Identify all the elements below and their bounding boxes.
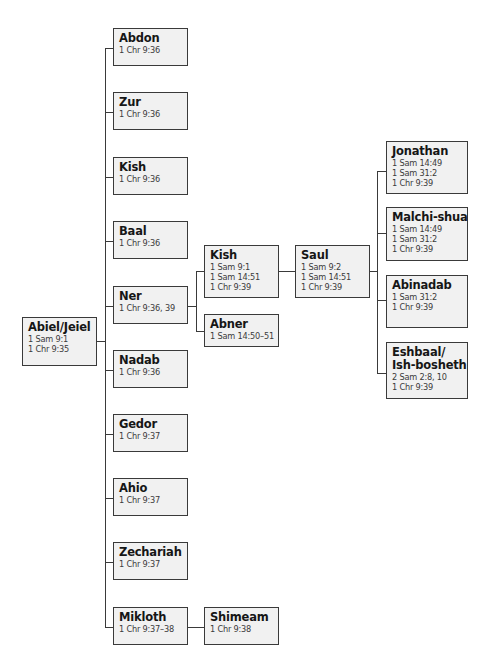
connector — [105, 370, 113, 371]
person-name: Abiel/Jeiel — [28, 321, 92, 334]
person-box-jonathan: Jonathan 1 Sam 14:49 1 Sam 31:2 1 Chr 9:… — [386, 141, 468, 194]
person-name: Zur — [119, 96, 183, 109]
person-box-abinadab: Abinadab 1 Sam 31:2 1 Chr 9:39 — [386, 275, 468, 328]
connector — [105, 177, 113, 178]
reference: 1 Chr 9:36 — [119, 174, 183, 184]
person-name-alt: Ish-bosheth — [392, 359, 463, 372]
reference: 1 Sam 31:2 — [392, 292, 463, 302]
person-box-baal: Baal 1 Chr 9:36 — [113, 221, 188, 259]
person-box-zur: Zur 1 Chr 9:36 — [113, 92, 188, 130]
reference: 2 Sam 2:8, 10 — [392, 372, 463, 382]
connector — [377, 373, 386, 374]
reference: 1 Chr 9:39 — [301, 282, 365, 292]
person-name: Nadab — [119, 354, 183, 367]
connector — [105, 48, 113, 49]
person-name: Ner — [119, 290, 183, 303]
person-box-ahio: Ahio 1 Chr 9:37 — [113, 478, 188, 516]
reference: 1 Chr 9:39 — [392, 302, 463, 312]
reference: 1 Chr 9:39 — [392, 244, 463, 254]
person-box-zechariah: Zechariah 1 Chr 9:37 — [113, 542, 188, 580]
reference: 1 Chr 9:37 — [119, 431, 183, 441]
person-box-abdon: Abdon 1 Chr 9:36 — [113, 28, 188, 66]
reference: 1 Sam 31:2 — [392, 234, 463, 244]
connector — [188, 627, 204, 628]
person-box-malchi-shua: Malchi-shua 1 Sam 14:49 1 Sam 31:2 1 Chr… — [386, 207, 468, 261]
reference: 1 Chr 9:36 — [119, 109, 183, 119]
reference: 1 Sam 14:49 — [392, 158, 463, 168]
person-name: Mikloth — [119, 611, 183, 624]
connector — [105, 434, 113, 435]
reference: 1 Sam 14:49 — [392, 224, 463, 234]
reference: 1 Sam 31:2 — [392, 168, 463, 178]
connector — [370, 271, 377, 272]
person-name: Malchi-shua — [392, 211, 463, 224]
reference: 1 Chr 9:38 — [210, 624, 274, 634]
connector — [105, 241, 113, 242]
person-box-abiel-jeiel: Abiel/Jeiel 1 Sam 9:1 1 Chr 9:35 — [22, 317, 97, 366]
connector — [105, 306, 113, 307]
reference: 1 Sam 9:1 — [210, 262, 274, 272]
person-box-nadab: Nadab 1 Chr 9:36 — [113, 350, 188, 388]
person-name: Baal — [119, 225, 183, 238]
person-name: Kish — [119, 161, 183, 174]
connector — [279, 271, 295, 272]
connector — [196, 271, 197, 332]
person-name: Saul — [301, 249, 365, 262]
connector — [188, 306, 196, 307]
connector — [377, 233, 386, 234]
person-name: Abdon — [119, 32, 183, 45]
connector — [377, 300, 386, 301]
person-box-mikloth: Mikloth 1 Chr 9:37–38 — [113, 607, 188, 645]
reference: 1 Sam 9:2 — [301, 262, 365, 272]
person-name: Jonathan — [392, 145, 463, 158]
connector — [97, 341, 105, 342]
reference: 1 Chr 9:36 — [119, 45, 183, 55]
reference: 1 Sam 14:51 — [210, 272, 274, 282]
reference: 1 Chr 9:37 — [119, 559, 183, 569]
person-box-saul: Saul 1 Sam 9:2 1 Sam 14:51 1 Chr 9:39 — [295, 245, 370, 298]
reference: 1 Sam 9:1 — [28, 334, 92, 344]
reference: 1 Chr 9:39 — [392, 178, 463, 188]
person-name: Gedor — [119, 418, 183, 431]
person-box-kish-2: Kish 1 Sam 9:1 1 Sam 14:51 1 Chr 9:39 — [204, 245, 279, 298]
person-box-shimeam: Shimeam 1 Chr 9:38 — [204, 607, 279, 645]
person-name: Shimeam — [210, 611, 274, 624]
reference: 1 Sam 14:50–51 — [210, 331, 274, 341]
connector — [196, 271, 204, 272]
connector — [105, 498, 113, 499]
person-name: Kish — [210, 249, 274, 262]
reference: 1 Chr 9:37 — [119, 495, 183, 505]
person-name: Abner — [210, 318, 274, 331]
reference: 1 Chr 9:39 — [392, 382, 463, 392]
connector — [105, 112, 113, 113]
person-box-eshbaal: Eshbaal/ Ish-bosheth 2 Sam 2:8, 10 1 Chr… — [386, 342, 468, 399]
person-name: Abinadab — [392, 279, 463, 292]
reference: 1 Chr 9:36 — [119, 238, 183, 248]
connector — [105, 627, 113, 628]
person-box-gedor: Gedor 1 Chr 9:37 — [113, 414, 188, 452]
connector — [105, 48, 106, 628]
reference: 1 Sam 14:51 — [301, 272, 365, 282]
connector — [196, 331, 204, 332]
person-name: Ahio — [119, 482, 183, 495]
connector — [377, 171, 386, 172]
person-box-kish-1: Kish 1 Chr 9:36 — [113, 157, 188, 195]
reference: 1 Chr 9:36, 39 — [119, 303, 183, 313]
person-name: Zechariah — [119, 546, 183, 559]
person-box-abner: Abner 1 Sam 14:50–51 — [204, 314, 279, 347]
connector — [377, 171, 378, 374]
person-box-ner: Ner 1 Chr 9:36, 39 — [113, 286, 188, 324]
reference: 1 Chr 9:37–38 — [119, 624, 183, 634]
reference: 1 Chr 9:35 — [28, 344, 92, 354]
reference: 1 Chr 9:36 — [119, 367, 183, 377]
connector — [105, 562, 113, 563]
reference: 1 Chr 9:39 — [210, 282, 274, 292]
